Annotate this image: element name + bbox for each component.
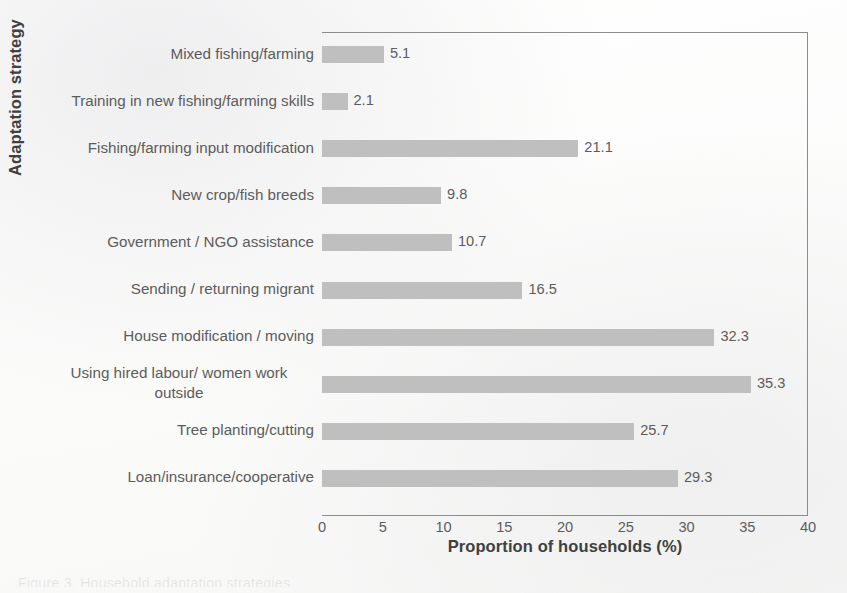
bar-value-label: 9.8: [447, 186, 467, 203]
x-axis-tick-label: 35: [727, 519, 767, 535]
x-axis-tick-label: 40: [788, 519, 828, 535]
cut-off-caption: Figure 3. Household adaptation strategie…: [18, 575, 290, 587]
bar: [322, 234, 452, 251]
x-axis-tick-label: 30: [667, 519, 707, 535]
bar: [322, 329, 714, 346]
bar: [322, 423, 634, 440]
x-axis-tick-label: 10: [424, 519, 464, 535]
category-label: Tree planting/cutting: [44, 420, 314, 440]
category-label: Using hired labour/ women work outside: [44, 363, 314, 403]
bar: [322, 46, 384, 63]
bar-value-label: 2.1: [354, 92, 374, 109]
bar: [322, 140, 578, 157]
bar-value-label: 16.5: [528, 281, 556, 298]
category-label: Government / NGO assistance: [44, 232, 314, 252]
x-axis-tick-label: 20: [545, 519, 585, 535]
bar: [322, 470, 678, 487]
bar-value-label: 21.1: [584, 139, 612, 156]
category-label: Mixed fishing/farming: [44, 44, 314, 64]
y-axis-title: Adaptation strategy: [6, 0, 32, 176]
category-label-group: Mixed fishing/farmingTraining in new fis…: [42, 0, 314, 593]
bar-value-label: 29.3: [684, 469, 712, 486]
category-label: Fishing/farming input modification: [44, 138, 314, 158]
x-axis-tick-label: 25: [606, 519, 646, 535]
category-label: New crop/fish breeds: [44, 185, 314, 205]
bar: [322, 282, 522, 299]
bar-value-label: 5.1: [390, 45, 410, 62]
x-axis-title: Proportion of households (%): [322, 537, 808, 556]
bar-chart-figure: Adaptation strategy Mixed fishing/farmin…: [0, 0, 847, 593]
bar: [322, 376, 751, 393]
plot-area: [322, 32, 808, 516]
category-label: Loan/insurance/cooperative: [44, 467, 314, 487]
category-label: Training in new fishing/farming skills: [44, 91, 314, 111]
bar-value-label: 35.3: [757, 375, 785, 392]
category-label: House modification / moving: [44, 326, 314, 346]
bar: [322, 187, 441, 204]
category-label: Sending / returning migrant: [44, 279, 314, 299]
bar-value-label: 25.7: [640, 422, 668, 439]
bar-value-label: 32.3: [720, 328, 748, 345]
bar: [322, 93, 348, 110]
bar-value-label: 10.7: [458, 233, 486, 250]
x-axis-tick-label: 15: [484, 519, 524, 535]
x-axis-tick-label: 5: [363, 519, 403, 535]
x-axis-tick-label: 0: [302, 519, 342, 535]
